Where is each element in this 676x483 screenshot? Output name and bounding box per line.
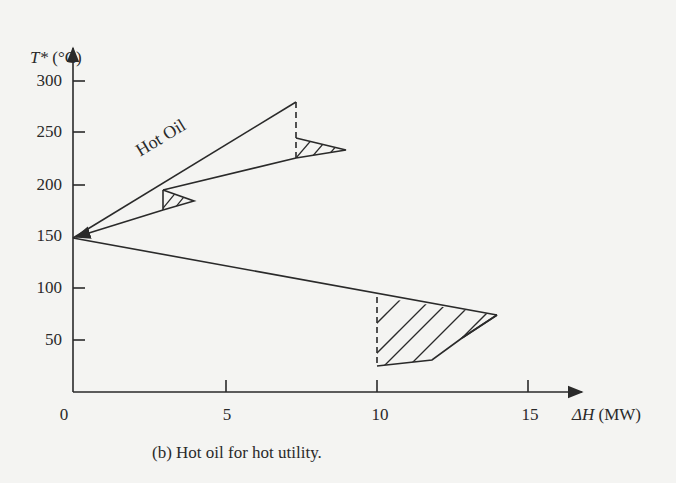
- figure-caption: (b) Hot oil for hot utility.: [152, 443, 322, 463]
- y-tick-150: 150: [22, 226, 62, 246]
- x-tick-5: 5: [212, 405, 242, 425]
- y-axis-var: T*: [30, 48, 48, 67]
- x-axis-unit: (MW): [599, 405, 641, 424]
- x-tick-10: 10: [365, 405, 395, 425]
- x-tick-0: 0: [49, 405, 79, 425]
- hot-oil-line: [73, 102, 296, 238]
- y-axis-unit: (°C): [52, 48, 81, 67]
- x-axis-var: ΔH: [572, 405, 594, 424]
- y-tick-100: 100: [22, 278, 62, 298]
- y-tick-200: 200: [22, 175, 62, 195]
- y-tick-300: 300: [22, 71, 62, 91]
- y-axis-label: T* (°C): [30, 48, 82, 68]
- upper-hatch: [290, 130, 350, 165]
- y-tick-250: 250: [22, 122, 62, 142]
- x-tick-15: 15: [515, 405, 545, 425]
- lower-stream-line: [73, 238, 497, 315]
- y-tick-50: 50: [22, 330, 62, 350]
- x-axis-label: ΔH (MW): [572, 405, 641, 425]
